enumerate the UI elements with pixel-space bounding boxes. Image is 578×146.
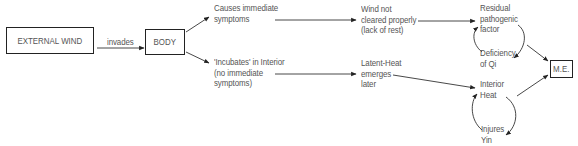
lower-step2-latent-heat-emerges: Latent-Heat emerges later bbox=[361, 58, 401, 90]
upper-step2-wind-not-cleared: Wind not cleared properly (lack of rest) bbox=[361, 4, 416, 36]
arrow-latent-to-interior bbox=[393, 75, 475, 88]
arrow-body-to-causes bbox=[186, 17, 209, 32]
cycle-arc-interior-to-injures bbox=[506, 97, 516, 135]
edge-label-invades: invades bbox=[107, 37, 134, 48]
node-external-wind-label: EXTERNAL WIND bbox=[18, 36, 83, 46]
upper-cycle-residual-pathogenic-factor: Residual pathogenic factor bbox=[480, 3, 518, 35]
node-body: BODY bbox=[145, 29, 185, 55]
node-body-label: BODY bbox=[154, 37, 176, 47]
node-me: M.E. bbox=[550, 60, 573, 78]
arrow-residual-to-me bbox=[527, 45, 548, 61]
lower-step1-incubates-in-interior: 'Incubates' in Interior (no immediate sy… bbox=[214, 57, 285, 89]
arrow-interior-to-me bbox=[517, 75, 548, 96]
arrow-body-to-incubates bbox=[186, 52, 209, 63]
lower-cycle-injures-yin: Injures Yin bbox=[481, 124, 504, 145]
node-me-label: M.E. bbox=[553, 64, 569, 74]
upper-step1-causes-immediate-symptoms: Causes immediate symptoms bbox=[214, 3, 278, 24]
lower-cycle-interior-heat: Interior Heat bbox=[480, 79, 504, 100]
upper-cycle-deficiency-of-qi: Deficiency of Qi bbox=[480, 48, 516, 69]
node-external-wind: EXTERNAL WIND bbox=[6, 27, 94, 54]
